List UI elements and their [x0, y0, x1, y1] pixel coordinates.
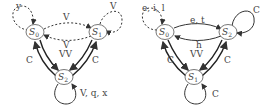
edge-s0-s1	[44, 23, 91, 29]
left-diagram: y V V V VV C C V, q, x S0 S1 S2	[13, 1, 122, 104]
state-diagrams: y V V V VV C C V, q, x S0 S1 S2	[0, 0, 264, 107]
node-s2: S2	[55, 70, 73, 85]
edge-label: C	[212, 89, 219, 99]
node-s0: S0	[156, 25, 174, 40]
edge-label: V, q, x	[79, 88, 107, 98]
edge-s1-s2	[202, 42, 226, 76]
edge-label: VV	[189, 49, 203, 59]
edge-label: y	[15, 1, 22, 11]
node-s1: S1	[185, 70, 203, 85]
edge-label: V	[62, 12, 70, 22]
edge-label: e, i, l	[142, 3, 165, 13]
edge-label: V	[109, 1, 117, 11]
edge-label: e, t	[190, 15, 205, 25]
edge-s0-s2	[40, 40, 58, 70]
edge-s2-s0	[35, 42, 56, 76]
edge-label: C	[224, 55, 231, 65]
edge-s1-self	[185, 84, 206, 104]
edge-label: C	[92, 55, 99, 65]
edge-label: VV	[58, 49, 72, 59]
right-diagram: e, i, l e, t C h VV C C C S0 S2	[142, 3, 260, 104]
node-s0: S0	[26, 25, 44, 40]
edge-s2-s1	[200, 40, 222, 70]
edge-s1-s2	[70, 40, 92, 70]
edge-s2-self	[55, 84, 76, 104]
edge-label: C	[167, 55, 174, 65]
edge-label: C	[26, 55, 33, 65]
edge-label: C	[253, 5, 260, 15]
node-s1: S1	[89, 25, 107, 40]
node-s2: S2	[219, 25, 237, 40]
